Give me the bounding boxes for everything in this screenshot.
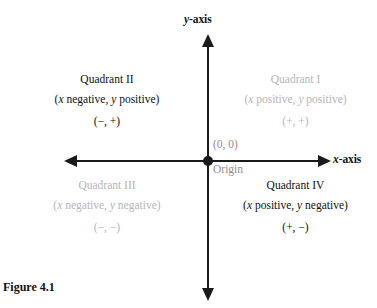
- y-axis-line: [207, 44, 209, 296]
- quadrant-3-desc-y-sign: negative): [115, 199, 161, 211]
- x-axis-label-suffix: -axis: [339, 153, 362, 165]
- quadrant-3-title: Quadrant III: [14, 176, 200, 195]
- quadrant-2-signs: (−, +): [14, 110, 200, 132]
- y-axis-label-suffix: -axis: [189, 13, 212, 25]
- x-axis-right-arrow-icon: [318, 155, 331, 167]
- quadrant-1-block: Quadrant I (x positive, y positive) (+, …: [214, 70, 377, 132]
- x-axis-label: x-axis: [333, 153, 361, 165]
- quadrant-4-signs: (+, −): [214, 216, 377, 238]
- quadrant-1-title: Quadrant I: [214, 70, 377, 89]
- quadrant-3-signs: (−, −): [14, 216, 200, 238]
- quadrant-2-block: Quadrant II (x negative, y positive) (−,…: [14, 70, 200, 132]
- quadrant-2-description: (x negative, y positive): [14, 89, 200, 110]
- x-axis-line: [76, 160, 319, 162]
- cartesian-plane-figure: y-axis x-axis Quadrant II (x negative, y…: [0, 0, 377, 308]
- quadrant-4-description: (x positive, y negative): [214, 195, 377, 216]
- quadrant-3-description: (x negative, y negative): [14, 195, 200, 216]
- y-axis-label: y-axis: [184, 13, 212, 25]
- quadrant-4-desc-x-sign: positive,: [252, 199, 297, 211]
- quadrant-4-block: Quadrant IV (x positive, y negative) (+,…: [214, 176, 377, 238]
- y-axis-up-arrow-icon: [202, 34, 214, 47]
- quadrant-1-desc-x-sign: positive,: [253, 93, 298, 105]
- origin-name-label: Origin: [213, 163, 243, 175]
- quadrant-2-desc-y-sign: positive): [116, 93, 159, 105]
- quadrant-4-desc-y-sign: negative): [302, 199, 348, 211]
- quadrant-3-desc-x-sign: negative,: [62, 199, 110, 211]
- quadrant-2-title: Quadrant II: [14, 70, 200, 89]
- quadrant-1-signs: (+, +): [214, 110, 377, 132]
- x-axis-left-arrow-icon: [64, 155, 77, 167]
- quadrant-4-title: Quadrant IV: [214, 176, 377, 195]
- quadrant-3-block: Quadrant III (x negative, y negative) (−…: [14, 176, 200, 238]
- quadrant-1-description: (x positive, y positive): [214, 89, 377, 110]
- origin-coordinates-label: (0, 0): [213, 138, 238, 150]
- quadrant-1-desc-y-sign: positive): [303, 93, 346, 105]
- figure-caption: Figure 4.1: [3, 280, 55, 295]
- origin-point-marker: [203, 156, 213, 166]
- quadrant-2-desc-x-sign: negative,: [64, 93, 112, 105]
- y-axis-down-arrow-icon: [202, 288, 214, 301]
